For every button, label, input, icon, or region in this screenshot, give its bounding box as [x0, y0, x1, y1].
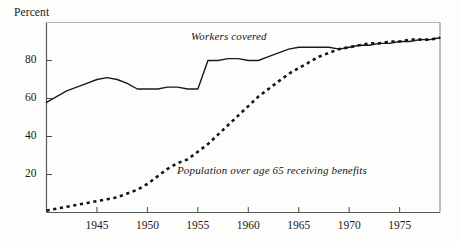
x-tick-label: 1975 [378, 219, 422, 231]
x-tick-label: 1965 [277, 219, 321, 231]
plot-area [0, 0, 459, 242]
x-tick-label: 1950 [125, 219, 169, 231]
y-tick-label: 20 [11, 167, 37, 179]
x-tick-label: 1960 [226, 219, 270, 231]
y-tick-label: 60 [11, 91, 37, 103]
y-tick-label: 40 [11, 129, 37, 141]
x-tick-label: 1955 [176, 219, 220, 231]
series-line-0 [47, 38, 441, 103]
x-tick-label: 1945 [75, 219, 119, 231]
series-line-1 [47, 38, 441, 211]
plot-frame [47, 23, 441, 213]
x-tick-label: 1970 [327, 219, 371, 231]
data-series [47, 38, 441, 211]
axis-ticks [47, 61, 400, 213]
chart-figure: Percent Workers covered Population over … [0, 0, 459, 242]
y-tick-label: 80 [11, 53, 37, 65]
